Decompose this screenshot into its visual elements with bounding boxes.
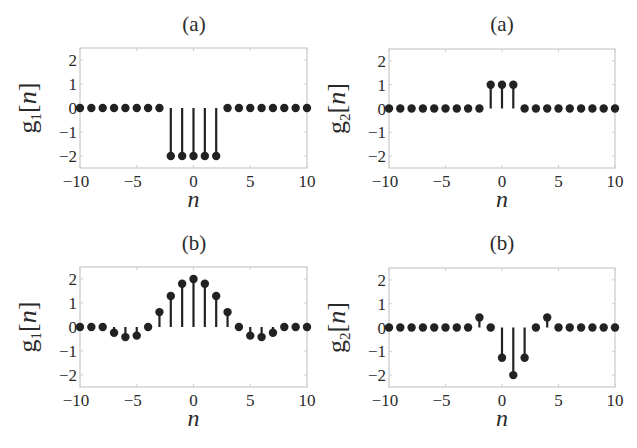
y-tick-label: −2 bbox=[368, 366, 386, 385]
stem-marker bbox=[167, 292, 175, 300]
stem-marker bbox=[577, 104, 585, 112]
stem-marker bbox=[223, 308, 231, 316]
stem-marker bbox=[453, 104, 461, 112]
stem-marker bbox=[76, 323, 84, 331]
stem-marker bbox=[303, 323, 311, 331]
stem-marker bbox=[246, 331, 254, 339]
stem-marker bbox=[509, 81, 517, 89]
y-axis-label: g2[n] bbox=[322, 302, 353, 353]
panel-title: (a) bbox=[490, 12, 513, 36]
stem-marker bbox=[509, 371, 517, 379]
stem-marker bbox=[121, 104, 129, 112]
stem-marker bbox=[600, 323, 608, 331]
stem-marker bbox=[269, 104, 277, 112]
stem-marker bbox=[498, 354, 506, 362]
y-tick-label: 2 bbox=[69, 270, 78, 289]
stem-marker bbox=[487, 81, 495, 89]
panel-g1-a: (a)210−1−2−10−50510ng1[n] bbox=[13, 12, 316, 212]
stem-marker bbox=[487, 323, 495, 331]
y-axis-label: g2[n] bbox=[322, 83, 353, 134]
stem-marker bbox=[532, 323, 540, 331]
y-tick-label: 2 bbox=[69, 51, 78, 70]
stem-marker bbox=[554, 323, 562, 331]
stem-marker bbox=[464, 104, 472, 112]
stem-marker bbox=[396, 323, 404, 331]
stem-marker bbox=[611, 104, 619, 112]
y-tick-label: 2 bbox=[378, 271, 387, 290]
stem-marker bbox=[235, 104, 243, 112]
y-tick-label: 1 bbox=[378, 295, 387, 314]
stem-marker bbox=[212, 152, 220, 160]
stem-marker bbox=[532, 104, 540, 112]
stem-marker bbox=[407, 104, 415, 112]
x-tick-label: −10 bbox=[63, 172, 90, 191]
stem-marker bbox=[110, 329, 118, 337]
stem-marker bbox=[110, 104, 118, 112]
x-tick-label: 5 bbox=[246, 391, 255, 410]
y-tick-label: 0 bbox=[378, 319, 387, 338]
stem-marker bbox=[475, 313, 483, 321]
y-tick-label: −2 bbox=[59, 147, 77, 166]
stem-marker bbox=[201, 152, 209, 160]
x-tick-label: −10 bbox=[372, 391, 399, 410]
x-tick-label: −5 bbox=[432, 172, 450, 191]
figure: (a)210−1−2−10−50510ng1[n] (a)210−1−2−10−… bbox=[0, 0, 637, 448]
stem-marker bbox=[246, 104, 254, 112]
x-axis-label: n bbox=[496, 405, 508, 431]
stem-marker bbox=[133, 104, 141, 112]
stem-marker bbox=[396, 104, 404, 112]
x-axis-label: n bbox=[496, 186, 508, 212]
y-tick-label: 1 bbox=[69, 294, 78, 313]
stem-marker bbox=[554, 104, 562, 112]
x-tick-label: −10 bbox=[63, 391, 90, 410]
y-tick-label: −1 bbox=[368, 123, 386, 142]
x-tick-label: −5 bbox=[432, 391, 450, 410]
stem-marker bbox=[419, 104, 427, 112]
stem-marker bbox=[223, 104, 231, 112]
stem-marker bbox=[99, 323, 107, 331]
stem-marker bbox=[588, 104, 596, 112]
stem-marker bbox=[520, 354, 528, 362]
stem-marker bbox=[76, 104, 84, 112]
stem-marker bbox=[291, 104, 299, 112]
y-tick-label: 1 bbox=[378, 76, 387, 95]
panel-title: (b) bbox=[490, 231, 515, 255]
y-tick-label: 0 bbox=[69, 318, 78, 337]
stem-marker bbox=[588, 323, 596, 331]
stem-marker bbox=[407, 323, 415, 331]
y-tick-label: 0 bbox=[378, 100, 387, 119]
stem-marker bbox=[441, 323, 449, 331]
stem-marker bbox=[189, 275, 197, 283]
stem-marker bbox=[600, 104, 608, 112]
y-tick-label: −1 bbox=[59, 123, 77, 142]
stem-marker bbox=[385, 323, 393, 331]
x-tick-label: 10 bbox=[299, 172, 316, 191]
stem-marker bbox=[121, 333, 129, 341]
x-tick-label: 10 bbox=[607, 391, 624, 410]
x-axis-label: n bbox=[188, 186, 200, 212]
stem-marker bbox=[201, 280, 209, 288]
stem-marker bbox=[543, 104, 551, 112]
stem-marker bbox=[419, 323, 427, 331]
stem-marker bbox=[178, 280, 186, 288]
y-tick-label: 2 bbox=[378, 52, 387, 71]
stem-marker bbox=[280, 323, 288, 331]
stem-marker bbox=[291, 323, 299, 331]
y-tick-label: 1 bbox=[69, 75, 78, 94]
stem-marker bbox=[257, 104, 265, 112]
stem-marker bbox=[543, 313, 551, 321]
y-tick-label: 0 bbox=[69, 99, 78, 118]
x-tick-label: 5 bbox=[554, 391, 563, 410]
y-axis-label: g1[n] bbox=[13, 302, 44, 353]
stem-marker bbox=[441, 104, 449, 112]
stem-marker bbox=[303, 104, 311, 112]
stem-marker bbox=[235, 323, 243, 331]
stem-marker bbox=[87, 104, 95, 112]
x-tick-label: −5 bbox=[124, 391, 142, 410]
stem-marker bbox=[566, 323, 574, 331]
stem-marker bbox=[611, 323, 619, 331]
stem-marker bbox=[269, 329, 277, 337]
stem-marker bbox=[155, 308, 163, 316]
stem-marker bbox=[475, 104, 483, 112]
stem-marker bbox=[133, 331, 141, 339]
